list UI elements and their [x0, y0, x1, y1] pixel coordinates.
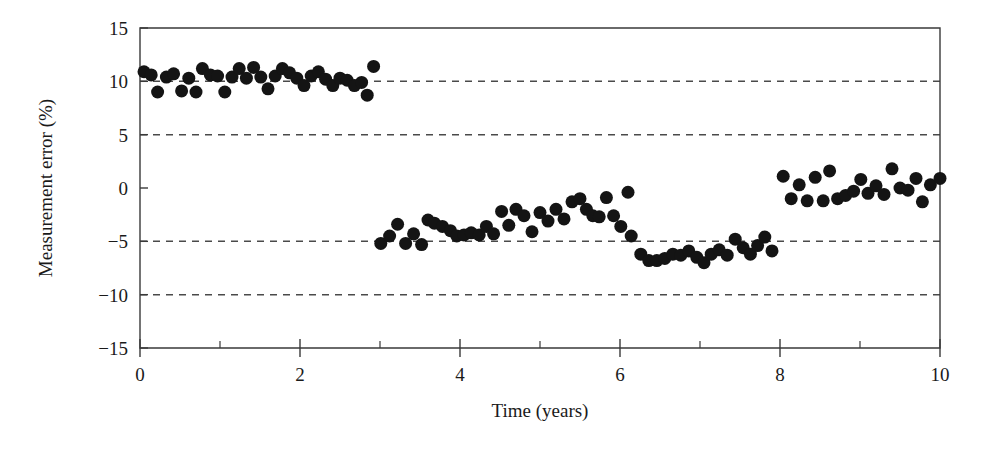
data-point	[600, 191, 613, 204]
data-point	[218, 86, 231, 99]
data-point	[182, 72, 195, 85]
data-point	[854, 173, 867, 186]
data-point	[847, 185, 860, 198]
y-axis-title: Measurement error (%)	[35, 99, 57, 277]
data-point	[211, 70, 224, 83]
data-point	[518, 209, 531, 222]
data-point	[593, 210, 606, 223]
data-point	[823, 164, 836, 177]
y-tick-label: 5	[119, 125, 129, 146]
data-point	[758, 231, 771, 244]
y-tick-label: −15	[98, 338, 128, 359]
y-tick-label: −10	[98, 285, 128, 306]
data-point	[262, 82, 275, 95]
x-tick-label: 4	[455, 364, 465, 385]
data-point	[793, 178, 806, 191]
data-point	[614, 220, 627, 233]
data-point	[607, 209, 620, 222]
chart-svg: 0246810 151050−5−10−15 Time (years) Meas…	[0, 0, 992, 458]
data-point	[145, 68, 158, 81]
data-point	[625, 230, 638, 243]
data-point	[916, 195, 929, 208]
data-point	[487, 227, 500, 240]
data-point	[785, 192, 798, 205]
data-point	[355, 76, 368, 89]
x-tick-label: 2	[295, 364, 305, 385]
x-axis-title: Time (years)	[492, 400, 589, 422]
y-tick-label: −5	[108, 231, 128, 252]
data-point	[407, 227, 420, 240]
data-point	[526, 225, 539, 238]
data-point	[934, 172, 947, 185]
data-point	[240, 72, 253, 85]
data-point	[367, 60, 380, 73]
data-point	[766, 244, 779, 257]
data-point	[558, 212, 571, 225]
x-tick-label: 0	[135, 364, 145, 385]
data-point	[361, 89, 374, 102]
data-point	[721, 249, 734, 262]
data-point	[622, 186, 635, 199]
data-point	[910, 172, 923, 185]
data-point	[391, 218, 404, 231]
data-point	[886, 162, 899, 175]
x-tick-label: 6	[615, 364, 625, 385]
data-point	[495, 205, 508, 218]
data-point	[542, 215, 555, 228]
y-tick-label: 10	[109, 71, 128, 92]
data-point	[151, 86, 164, 99]
data-point	[777, 170, 790, 183]
x-tick-label: 8	[775, 364, 785, 385]
data-point	[167, 67, 180, 80]
data-point	[415, 238, 428, 251]
data-point	[902, 184, 915, 197]
y-tick-label: 0	[119, 178, 129, 199]
x-tick-label: 10	[931, 364, 950, 385]
data-point	[801, 194, 814, 207]
data-point	[175, 84, 188, 97]
data-point	[190, 86, 203, 99]
data-point	[383, 230, 396, 243]
data-point	[817, 194, 830, 207]
data-point	[502, 219, 515, 232]
data-point	[878, 188, 891, 201]
y-tick-label: 15	[109, 18, 128, 39]
scatter-chart-figure: 0246810 151050−5−10−15 Time (years) Meas…	[0, 0, 992, 458]
data-point	[809, 171, 822, 184]
data-point	[254, 71, 267, 84]
